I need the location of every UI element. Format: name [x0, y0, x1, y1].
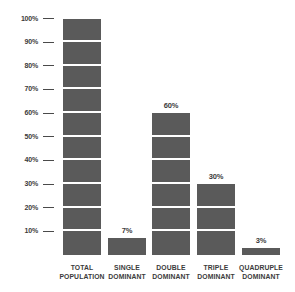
plot-area: TOTALPOPULATION7%SINGLEDOMINANT60%DOUBLE… [60, 0, 295, 292]
bar-group[interactable]: 3%QUADRUPLEDOMINANT [242, 0, 280, 292]
y-axis-tick-dash-icon [43, 113, 54, 114]
x-axis-label-line2: DOMINANT [235, 273, 287, 282]
y-axis-tick: 40% [0, 155, 58, 165]
x-axis-label-line1: QUADRUPLE [235, 264, 287, 273]
bar-group[interactable]: TOTALPOPULATION [63, 0, 101, 292]
y-axis-tick-dash-icon [43, 89, 54, 90]
bar-segment [152, 160, 190, 182]
bar-segment [63, 184, 101, 206]
bar-segment [152, 208, 190, 230]
y-axis-tick: 60% [0, 108, 58, 118]
bar-chart: 100%90%80%70%60%50%40%30%20%10% TOTALPOP… [0, 0, 295, 292]
bar-segment [63, 160, 101, 182]
bar-segment [197, 184, 235, 206]
bar-segment [63, 113, 101, 135]
y-axis-tick-dash-icon [43, 42, 54, 43]
bar-group[interactable]: 7%SINGLEDOMINANT [108, 0, 146, 292]
bar-segment [152, 113, 190, 135]
y-axis-tick-dash-icon [43, 184, 54, 185]
y-axis-tick-label: 10% [25, 226, 38, 236]
bar-value-label: 7% [108, 226, 146, 235]
bar-segment [63, 66, 101, 88]
y-axis-tick-label: 90% [25, 37, 38, 47]
bar-segment [63, 19, 101, 41]
y-axis-tick-label: 60% [25, 108, 38, 118]
y-axis-tick: 90% [0, 37, 58, 47]
y-axis-tick-dash-icon [43, 231, 54, 232]
bar-value-label: 3% [242, 236, 280, 245]
y-axis-tick-dash-icon [43, 136, 54, 137]
y-axis-tick-label: 20% [25, 203, 38, 213]
bar-segment [152, 231, 190, 255]
bar-segment [197, 208, 235, 230]
y-axis-tick-label: 50% [25, 132, 38, 142]
y-axis-tick: 50% [0, 132, 58, 142]
y-axis-tick: 70% [0, 84, 58, 94]
bar-segment [108, 238, 146, 255]
y-axis-tick-dash-icon [43, 18, 54, 19]
y-axis-tick: 80% [0, 61, 58, 71]
bar-segment [152, 184, 190, 206]
y-axis-tick-label: 40% [25, 155, 38, 165]
bar-group[interactable]: 30%TRIPLEDOMINANT [197, 0, 235, 292]
bar-segment [63, 231, 101, 255]
y-axis-tick: 10% [0, 226, 58, 236]
bar-segment [63, 89, 101, 111]
bar-segment [63, 137, 101, 159]
y-axis-tick-label: 80% [25, 61, 38, 71]
bar-segment [152, 137, 190, 159]
y-axis-tick: 100% [0, 14, 58, 24]
y-axis: 100%90%80%70%60%50%40%30%20%10% [0, 0, 60, 292]
y-axis-tick-dash-icon [43, 65, 54, 66]
y-axis-tick: 20% [0, 203, 58, 213]
bar-group[interactable]: 60%DOUBLEDOMINANT [152, 0, 190, 292]
bar-value-label: 30% [197, 172, 235, 181]
bar-segment [197, 231, 235, 255]
y-axis-tick: 30% [0, 179, 58, 189]
y-axis-tick-dash-icon [43, 160, 54, 161]
y-axis-tick-label: 70% [25, 84, 38, 94]
x-axis-category-label: QUADRUPLEDOMINANT [235, 264, 287, 281]
y-axis-tick-label: 100% [21, 14, 38, 24]
bar-segment [242, 248, 280, 255]
bar-segment [63, 208, 101, 230]
y-axis-tick-label: 30% [25, 179, 38, 189]
bar-segment [63, 42, 101, 64]
y-axis-tick-dash-icon [43, 207, 54, 208]
bar-value-label: 60% [152, 101, 190, 110]
